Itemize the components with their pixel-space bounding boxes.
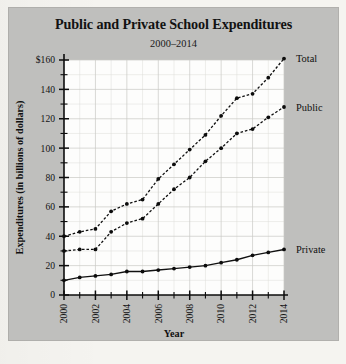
figure-root: Public and Private School Expenditures 2… — [0, 0, 346, 364]
x-tick-label: 2012 — [247, 304, 258, 323]
data-point-public — [62, 249, 66, 253]
data-point-public — [109, 230, 113, 234]
x-tick-label: 2010 — [215, 304, 226, 323]
data-point-total — [141, 198, 145, 202]
data-point-total — [172, 162, 176, 166]
data-point-total — [251, 92, 255, 96]
data-point-private — [204, 264, 208, 268]
y-tick-label: 80 — [45, 172, 55, 183]
chart-panel: Public and Private School Expenditures 2… — [9, 8, 338, 340]
data-point-private — [172, 267, 176, 271]
data-point-public — [94, 248, 98, 252]
data-point-public — [125, 221, 129, 225]
data-point-private — [94, 274, 98, 278]
data-point-public — [266, 115, 270, 119]
y-tick-label: 20 — [45, 260, 55, 271]
y-tick-label: 0 — [50, 289, 55, 300]
series-label-public: Public — [296, 102, 323, 113]
data-point-private — [125, 270, 129, 274]
data-point-total — [62, 234, 66, 238]
data-point-private — [266, 251, 270, 255]
data-point-public — [141, 217, 145, 221]
x-tick-label: 2006 — [153, 304, 164, 323]
data-point-private — [141, 270, 145, 274]
y-axis-tick-labels: 020406080100120140$160 — [36, 54, 55, 300]
data-point-private — [188, 265, 192, 269]
data-point-total — [219, 114, 223, 118]
data-point-total — [266, 76, 270, 80]
data-point-public — [251, 127, 255, 131]
data-point-total — [109, 209, 113, 213]
data-point-private — [78, 275, 82, 279]
data-point-public — [282, 105, 286, 109]
y-tick-label: 60 — [45, 201, 55, 212]
data-point-total — [282, 57, 286, 61]
data-point-total — [94, 227, 98, 231]
series-label-private: Private — [296, 244, 326, 255]
data-point-private — [109, 273, 113, 277]
x-axis-title: Year — [164, 328, 185, 339]
x-tick-label: 2014 — [278, 304, 289, 323]
data-point-public — [188, 176, 192, 180]
y-axis-title: Expenditures (in billions of dollars) — [14, 101, 26, 255]
data-point-total — [235, 96, 239, 100]
y-tick-label: 40 — [45, 231, 55, 242]
data-point-private — [219, 261, 223, 265]
y-tick-label: 100 — [41, 143, 56, 154]
data-point-total — [188, 148, 192, 152]
y-tick-label: 120 — [41, 113, 56, 124]
data-point-private — [282, 248, 286, 252]
series-label-total: Total — [296, 53, 317, 64]
x-tick-label: 2000 — [58, 304, 69, 323]
data-point-total — [204, 133, 208, 137]
series-labels-group: TotalPublicPrivate — [296, 53, 326, 255]
data-point-total — [125, 202, 129, 206]
x-tick-label: 2008 — [184, 304, 195, 323]
data-point-public — [219, 146, 223, 150]
data-point-total — [78, 230, 82, 234]
data-point-private — [251, 253, 255, 257]
data-point-public — [172, 187, 176, 191]
data-point-private — [62, 278, 66, 282]
x-axis-tick-labels: 20002002200420062008201020122014 — [58, 304, 289, 323]
x-tick-label: 2002 — [90, 304, 101, 323]
y-tick-label: 140 — [41, 84, 56, 95]
data-point-public — [204, 159, 208, 163]
data-point-public — [235, 132, 239, 136]
y-tick-label: $160 — [36, 54, 55, 65]
data-point-private — [235, 258, 239, 262]
data-point-public — [78, 248, 82, 252]
data-point-private — [156, 268, 160, 272]
data-point-public — [156, 202, 160, 206]
x-tick-label: 2004 — [121, 304, 132, 323]
data-point-total — [156, 177, 160, 181]
line-chart-plot: 020406080100120140$160 20002002200420062… — [9, 8, 338, 340]
